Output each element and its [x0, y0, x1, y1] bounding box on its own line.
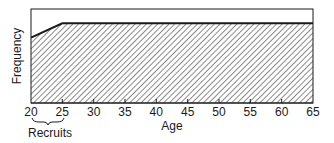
x-tick-label: 20 — [24, 105, 38, 119]
x-tick-label: 30 — [87, 105, 101, 119]
recruits-brace — [32, 118, 64, 125]
age-frequency-chart: 20253035404550556065 Age Frequency Recru… — [0, 0, 334, 143]
x-tick-label: 25 — [56, 105, 70, 119]
frequency-area — [31, 23, 313, 103]
x-axis-label: Age — [161, 119, 183, 133]
x-tick-label: 65 — [306, 105, 320, 119]
x-tick-label: 60 — [275, 105, 289, 119]
x-tick-label: 35 — [118, 105, 132, 119]
x-tick-label: 50 — [212, 105, 226, 119]
recruits-label: Recruits — [28, 126, 72, 140]
x-tick-label: 40 — [150, 105, 164, 119]
x-tick-label: 55 — [244, 105, 258, 119]
x-tick-label: 45 — [181, 105, 195, 119]
y-axis-label: Frequency — [10, 28, 24, 85]
